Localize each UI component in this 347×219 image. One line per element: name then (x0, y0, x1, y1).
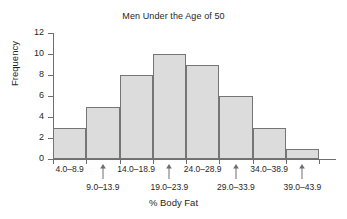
label-pointer-arrow-icon (232, 164, 239, 179)
histogram-bar (286, 149, 319, 160)
y-tick-label: 8 (39, 69, 44, 79)
y-tick-label: 12 (34, 27, 44, 37)
histogram-bar (153, 54, 186, 159)
label-pointer-arrow-icon (99, 164, 106, 179)
y-tick-label: 4 (39, 111, 44, 121)
x-tick-label: 29.0–33.9 (217, 182, 255, 192)
histogram-bar (86, 107, 119, 160)
x-tick-mark (86, 160, 87, 164)
x-axis-line (53, 159, 336, 160)
histogram-figure: Men Under the Age of 50 Frequency 024681… (0, 0, 347, 219)
histogram-bar (120, 75, 153, 159)
label-pointer-arrow-icon (166, 164, 173, 179)
x-tick-mark (319, 160, 320, 164)
x-tick-label: 39.0–43.9 (283, 182, 321, 192)
histogram-bar (53, 128, 86, 160)
x-tick-label: 14.0–18.9 (117, 164, 155, 174)
plot-area (53, 33, 319, 159)
histogram-bar (253, 128, 286, 160)
x-tick-label: 34.0–38.9 (250, 164, 288, 174)
y-tick-label: 10 (34, 48, 44, 58)
histogram-bar (219, 96, 252, 159)
chart-title: Men Under the Age of 50 (0, 11, 347, 21)
x-tick-mark (53, 160, 54, 164)
y-tick-label: 2 (39, 132, 44, 142)
x-tick-label: 4.0–8.9 (55, 164, 83, 174)
y-tick-label: 6 (39, 90, 44, 100)
x-tick-label: 24.0–28.9 (184, 164, 222, 174)
y-tick-label: 0 (39, 153, 44, 163)
y-axis-label: Frequency (9, 24, 20, 104)
x-tick-label: 9.0–13.9 (86, 182, 119, 192)
x-tick-label: 19.0–23.9 (150, 182, 188, 192)
label-pointer-arrow-icon (299, 164, 306, 179)
histogram-bar (186, 65, 219, 160)
x-axis-label: % Body Fat (0, 197, 347, 208)
